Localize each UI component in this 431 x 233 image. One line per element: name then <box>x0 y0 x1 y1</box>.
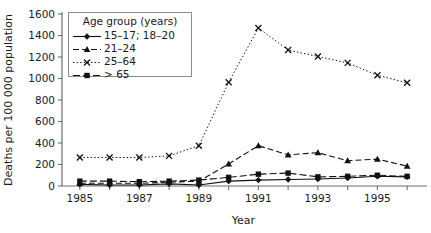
y-tick-label: 200 <box>35 158 55 170</box>
legend-marker-x-icon <box>72 54 102 67</box>
data-point-marker <box>225 161 232 167</box>
legend-item-label: 25–64 <box>104 55 136 67</box>
data-point-marker <box>196 143 202 149</box>
data-point-marker <box>84 73 89 78</box>
data-point-marker <box>255 177 261 183</box>
data-point-marker <box>314 149 321 155</box>
y-axis: 02004006008001000120014001600 <box>28 8 62 192</box>
data-point-marker <box>77 155 83 161</box>
y-tick-label: 1400 <box>28 29 55 41</box>
data-point-marker <box>375 173 380 178</box>
legend-marker-triangle-icon <box>72 41 102 54</box>
data-point-marker <box>285 170 290 175</box>
x-tick-label: 1989 <box>186 192 213 204</box>
legend-marker-diamond-icon <box>72 28 102 41</box>
data-point-marker <box>404 174 409 179</box>
data-point-marker <box>166 178 171 183</box>
legend-title: Age group (years) <box>69 13 191 28</box>
legend-item-4: > 65 <box>69 67 191 80</box>
data-point-marker <box>404 80 410 86</box>
line-chart-plot: 02004006008001000120014001600 1985198719… <box>0 0 431 233</box>
legend-item-label: 21–24 <box>104 42 136 54</box>
data-point-marker <box>226 79 232 85</box>
y-tick-label: 1200 <box>28 51 55 63</box>
y-tick-label: 1600 <box>28 8 55 20</box>
x-tick-label: 1985 <box>66 192 93 204</box>
x-axis: 198519871989199119931995 <box>62 186 427 204</box>
series-21-24 <box>76 142 410 186</box>
data-point-marker <box>196 177 201 182</box>
data-point-marker <box>345 60 351 66</box>
legend-item-label: 15–17; 18–20 <box>104 29 175 41</box>
y-axis-title: Deaths per 100 000 population <box>2 14 15 186</box>
chart-figure: 02004006008001000120014001600 1985198719… <box>0 0 431 233</box>
data-point-marker <box>226 175 231 180</box>
x-tick-label: 1987 <box>126 192 153 204</box>
data-point-marker <box>137 179 142 184</box>
data-point-marker <box>315 174 320 179</box>
data-point-marker <box>107 155 113 161</box>
legend-items: 15–17; 18–2021–2425–64> 65 <box>69 28 191 80</box>
y-tick-label: 1000 <box>28 72 55 84</box>
data-point-marker <box>77 178 82 183</box>
data-point-marker <box>255 25 261 31</box>
data-point-marker <box>256 171 261 176</box>
x-tick-label: 1993 <box>305 192 332 204</box>
x-axis-title: Year <box>231 214 256 227</box>
y-tick-label: 800 <box>35 94 55 106</box>
data-point-marker <box>285 176 291 182</box>
y-tick-label: 0 <box>48 180 55 192</box>
data-point-marker <box>107 178 112 183</box>
data-point-marker <box>374 72 380 78</box>
legend-item-label: > 65 <box>104 68 130 80</box>
data-point-marker <box>84 33 90 39</box>
chart-legend: Age group (years) 15–17; 18–2021–2425–64… <box>68 12 192 77</box>
x-tick-label: 1991 <box>245 192 272 204</box>
y-tick-label: 400 <box>35 137 55 149</box>
legend-marker-square-icon <box>72 67 102 80</box>
legend-item-1: 15–17; 18–20 <box>69 28 191 41</box>
legend-item-2: 21–24 <box>69 41 191 54</box>
legend-item-3: 25–64 <box>69 54 191 67</box>
y-tick-label: 600 <box>35 115 55 127</box>
x-tick-label: 1995 <box>364 192 391 204</box>
data-point-marker <box>345 174 350 179</box>
data-point-marker <box>255 142 262 148</box>
